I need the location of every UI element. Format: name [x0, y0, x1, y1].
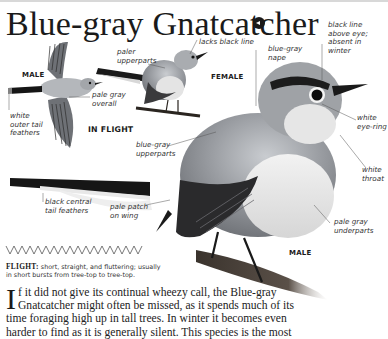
male-perched-label: MALE [289, 249, 311, 257]
annotation-lacks-black-line: lacks black line [199, 38, 254, 47]
flight-heading: FLIGHT: [6, 262, 39, 271]
annotation-white-throat: white throat [362, 166, 384, 183]
annotation-paler-upperparts: paler upperparts [117, 48, 157, 65]
annotation-pale-gray-underparts: pale gray underparts [334, 218, 374, 235]
annotation-black-central-tail: black central tail feathers [45, 198, 91, 215]
in-flight-label: IN FLIGHT [88, 125, 133, 134]
female-label: FEMALE [211, 73, 243, 81]
annotation-white-eye-ring: white eye-ring [357, 114, 387, 131]
annotation-white-outer-tail: white outer tail feathers [10, 112, 43, 138]
body-line: f it did not give its continual wheezy c… [6, 286, 278, 299]
annotation-blue-gray-nape: blue-gray nape [268, 45, 302, 62]
drop-cap: I [6, 287, 16, 311]
annotation-blue-gray-upperparts: blue-gray upperparts [136, 141, 176, 158]
species-description: I f it did not give its continual wheezy… [6, 286, 278, 339]
annotation-black-line-above-eye: black line above eye; absent in winter [328, 21, 368, 55]
annotation-pale-gray-overall: pale gray overall [92, 91, 126, 108]
in-flight-male-label: MALE [22, 71, 44, 79]
annotation-pale-patch-on-wing: pale patch on wing [110, 203, 148, 220]
body-line: Gnatcatcher might often be missed, as it… [6, 299, 278, 312]
zigzag-flight-pattern-icon [6, 246, 142, 254]
flight-description: FLIGHT: short, straight, and fluttering;… [6, 263, 166, 280]
body-line: harder to find as it is generally silent… [6, 326, 278, 339]
body-line: time foraging high up in tall trees. In … [6, 312, 278, 325]
